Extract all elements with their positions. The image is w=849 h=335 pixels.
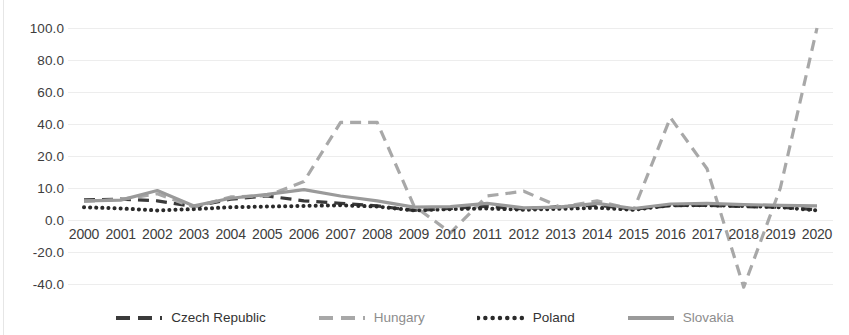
legend-swatch-dotted-icon [477, 313, 525, 323]
x-axis-tick-label: 2020 [802, 226, 832, 242]
series-layer [68, 0, 833, 300]
y-axis-tick-label: 60.0 [2, 85, 64, 100]
legend-item[interactable]: Czech Republic [115, 310, 266, 325]
y-axis-tick-label: 0.0 [2, 213, 64, 228]
x-axis-tick-label: 2004 [215, 226, 245, 242]
series-line [84, 28, 817, 287]
x-axis-tick-label: 2014 [582, 226, 612, 242]
x-axis-tick-label: 2016 [655, 226, 685, 242]
x-axis-tick-label: 2012 [509, 226, 539, 242]
x-axis: 2000200120022003200420052006200720082009… [68, 226, 833, 248]
x-axis-tick-label: 2007 [325, 226, 355, 242]
legend-label: Hungary [374, 310, 425, 325]
x-axis-tick-label: 2000 [69, 226, 99, 242]
legend-item[interactable]: Slovakia [627, 310, 734, 325]
plot-area [68, 0, 833, 300]
legend-item[interactable]: Poland [477, 310, 575, 325]
y-axis-tick-label: 80.0 [2, 53, 64, 68]
legend-label: Slovakia [683, 310, 734, 325]
x-axis-tick-label: 2006 [289, 226, 319, 242]
x-axis-tick-label: 2001 [105, 226, 135, 242]
legend-swatch-solid-icon [627, 313, 675, 323]
y-axis-tick-label: 100.0 [2, 21, 64, 36]
legend-label: Czech Republic [171, 310, 266, 325]
y-axis-tick-label: -20.0 [2, 245, 64, 260]
y-axis-tick-label: 20.0 [2, 149, 64, 164]
x-axis-tick-label: 2008 [362, 226, 392, 242]
x-axis-tick-label: 2009 [399, 226, 429, 242]
x-axis-tick-label: 2017 [692, 226, 722, 242]
y-axis-tick-label: 10.0 [2, 181, 64, 196]
x-axis-tick-label: 2003 [179, 226, 209, 242]
x-axis-tick-label: 2002 [142, 226, 172, 242]
chart-legend: Czech RepublicHungaryPolandSlovakia [0, 300, 849, 335]
x-axis-tick-label: 2019 [765, 226, 795, 242]
legend-swatch-dashed-icon [115, 313, 163, 323]
x-axis-tick-label: 2011 [472, 226, 501, 242]
y-axis: 100.080.060.040.020.010.00.0-20.0-40.0 [0, 0, 64, 335]
x-axis-tick-label: 2010 [435, 226, 465, 242]
x-axis-tick-label: 2018 [729, 226, 759, 242]
x-axis-tick-label: 2015 [619, 226, 649, 242]
legend-swatch-dashed-icon [318, 313, 366, 323]
y-axis-tick-label: 40.0 [2, 117, 64, 132]
y-axis-tick-label: -40.0 [2, 277, 64, 292]
line-chart: 100.080.060.040.020.010.00.0-20.0-40.0 2… [0, 0, 849, 335]
legend-item[interactable]: Hungary [318, 310, 425, 325]
x-axis-tick-label: 2013 [545, 226, 575, 242]
legend-label: Poland [533, 310, 575, 325]
x-axis-tick-label: 2005 [252, 226, 282, 242]
